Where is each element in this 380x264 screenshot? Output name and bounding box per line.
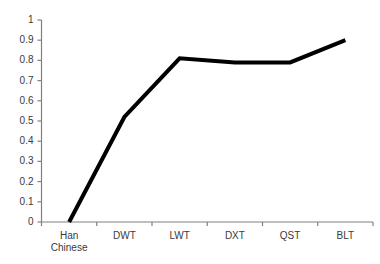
line-chart: 00.10.20.30.40.50.60.70.80.91 HanChinese… [0,0,380,264]
y-axis-tick-label: 0 [0,217,34,227]
y-axis-tick-label: 0.6 [0,96,34,106]
y-axis-tick-label: 0.7 [0,76,34,86]
y-axis-tick-label: 0.9 [0,35,34,45]
y-axis-tick-label: 0.8 [0,55,34,65]
x-axis-tick-label-line: LWT [152,230,207,242]
y-axis-tick-label: 0.2 [0,177,34,187]
x-axis-tick-label-line: Chinese [42,242,97,254]
x-axis-tick-label-line: QST [263,230,318,242]
y-axis-tick-label: 1 [0,15,34,25]
x-axis-tick-label: LWT [152,230,207,242]
x-axis-tick-label-line: Han [42,230,97,242]
x-axis-tick-label: DXT [207,230,262,242]
x-axis-tick-label: HanChinese [42,230,97,253]
x-axis-tick-label: QST [263,230,318,242]
data-line-series [69,40,345,222]
x-axis-tick-label-line: DWT [97,230,152,242]
chart-canvas [0,0,380,264]
y-axis-tick-label: 0.4 [0,136,34,146]
x-axis-tick-label-line: BLT [318,230,373,242]
x-axis-tick-label: BLT [318,230,373,242]
x-axis-tick-label: DWT [97,230,152,242]
y-axis-tick-label: 0.5 [0,116,34,126]
x-axis-tick-label-line: DXT [207,230,262,242]
data-series-layer [69,40,345,222]
y-axis-tick-label: 0.3 [0,156,34,166]
y-axis-tick-label: 0.1 [0,197,34,207]
